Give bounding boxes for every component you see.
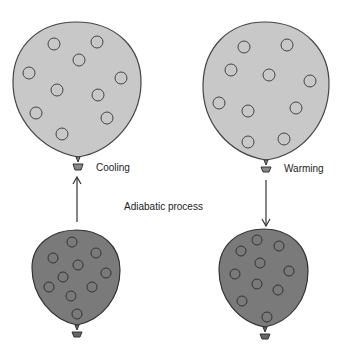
arrow-down-icon	[262, 180, 270, 226]
adiabatic-diagram	[0, 0, 348, 350]
balloon-knot	[261, 160, 271, 172]
balloon-bottom-right	[219, 229, 308, 339]
label-adiabatic-process: Adiabatic process	[124, 201, 203, 212]
label-cooling: Cooling	[96, 162, 130, 173]
balloon-knot	[260, 327, 270, 339]
label-warming: Warming	[284, 163, 324, 174]
balloon-bottom-left	[32, 230, 120, 337]
balloon-knot	[73, 157, 83, 170]
balloon-top-right	[203, 22, 329, 172]
arrow-up-icon	[73, 177, 81, 222]
balloon-top-left	[13, 22, 141, 170]
balloon-knot	[72, 325, 82, 337]
